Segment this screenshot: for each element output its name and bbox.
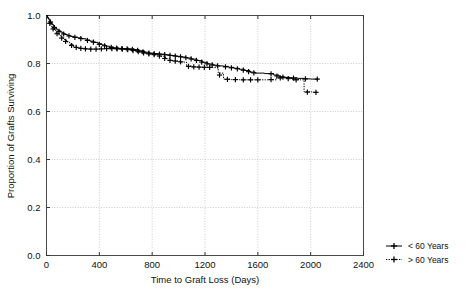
x-tick-label: 1200 bbox=[194, 259, 215, 270]
y-tick-label: 0.8 bbox=[27, 58, 40, 69]
legend-label: < 60 Years bbox=[408, 241, 448, 251]
x-tick-label: 2400 bbox=[353, 259, 374, 270]
y-tick-label: 0.4 bbox=[27, 154, 40, 165]
x-axis-title: Time to Graft Loss (Days) bbox=[151, 274, 259, 285]
x-tick-label: 0 bbox=[44, 259, 49, 270]
y-tick-label: 0.2 bbox=[27, 202, 40, 213]
kaplan-meier-chart: 04008001200160020002400 0.00.20.40.60.81… bbox=[0, 0, 471, 292]
y-axis-title: Proportion of Grafts Surviving bbox=[5, 74, 16, 199]
survival-chart-figure: 04008001200160020002400 0.00.20.40.60.81… bbox=[0, 0, 471, 292]
y-tick-label: 0.6 bbox=[27, 106, 40, 117]
y-tick-label: 1.0 bbox=[27, 10, 40, 21]
x-tick-label: 400 bbox=[91, 259, 107, 270]
legend-label: > 60 Years bbox=[408, 255, 448, 265]
x-tick-label: 800 bbox=[144, 259, 160, 270]
y-tick-label: 0.0 bbox=[27, 250, 40, 261]
x-tick-label: 1600 bbox=[247, 259, 268, 270]
x-tick-label: 2000 bbox=[300, 259, 321, 270]
